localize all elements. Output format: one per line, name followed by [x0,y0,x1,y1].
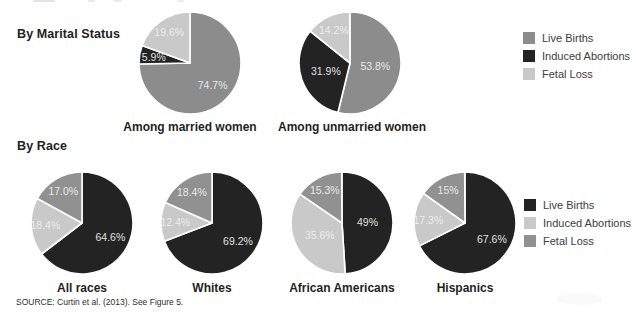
pie-slice-value-label: 17.3% [414,214,444,226]
pie-chart-all-races: 64.6%18.4%17.0% [29,170,135,276]
cropped-text-artifact [33,0,55,2]
legend-label-live-births: Live Births [542,32,593,44]
legend-label-induced-abortions: Induced Abortions [543,217,631,229]
legend-label-fetal-loss: Fetal Loss [543,235,594,247]
scan-smudge [556,293,602,305]
section-label-marital-status: By Marital Status [17,27,120,41]
pie-slice-value-label: 18.4% [177,186,207,198]
pie-slice-value-label: 15% [438,184,459,196]
legend-label-induced-abortions: Induced Abortions [542,50,630,62]
legend-race: Live Births Induced Abortions Fetal Loss [524,199,631,253]
legend-item-live-births: Live Births [523,32,630,44]
source-citation: SOURCE: Curtin et al. (2013). See Figure… [16,297,183,307]
legend-label-fetal-loss: Fetal Loss [542,68,593,80]
pie-chart-unmarried-women: 53.8%31.9%14.2% [297,10,403,116]
cropped-text-artifact [114,0,122,2]
legend-item-live-births: Live Births [524,199,631,211]
legend-item-induced-abortions: Induced Abortions [524,217,631,229]
pie-chart-married-women: 74.7%5.9%19.6% [137,10,243,116]
pie-slice-value-label: 17.0% [48,185,78,197]
pie-chart-whites: 69.2%12.4%18.4% [159,170,265,276]
legend-item-fetal-loss: Fetal Loss [524,235,631,247]
pie-title-hispanics: Hispanics [405,281,525,295]
pie-chart-hispanics: 67.6%17.3%15% [412,170,518,276]
pie-chart-african-americans: 49%35.6%15.3% [289,170,395,276]
legend-item-induced-abortions: Induced Abortions [523,50,630,62]
pie-slice-value-label: 18.4% [31,219,61,231]
pie-slice-value-label: 53.8% [360,60,390,72]
pie-title-all-races: All races [22,281,142,295]
pie-slice-value-label: 12.4% [160,216,190,228]
pie-slice-value-label: 19.6% [154,26,184,38]
cropped-text-artifact [88,0,95,2]
legend-swatch-live-births [524,199,536,211]
pie-slice-value-label: 69.2% [223,235,253,247]
legend-marital-status: Live Births Induced Abortions Fetal Loss [523,32,630,86]
pie-slice-value-label: 74.7% [198,79,228,91]
legend-swatch-fetal-loss [524,235,536,247]
legend-label-live-births: Live Births [543,199,594,211]
legend-swatch-induced-abortions [524,217,536,229]
pie-slice-value-label: 49% [357,216,378,228]
pie-slice-value-label: 15.3% [310,184,340,196]
pie-title-unmarried-women: Among unmarried women [260,120,444,134]
legend-item-fetal-loss: Fetal Loss [523,68,630,80]
pie-slice-value-label: 31.9% [311,65,341,77]
pie-slice-value-label: 35.6% [305,229,335,241]
pie-slice-value-label: 14.2% [319,24,349,36]
pie-title-african-americans: African Americans [262,281,422,295]
pie-title-whites: Whites [152,281,272,295]
legend-swatch-fetal-loss [523,68,535,80]
figure-pregnancy-outcomes: By Marital Status By Race 74.7%5.9%19.6%… [0,0,636,316]
pie-title-married-women: Among married women [100,120,280,134]
legend-swatch-live-births [523,32,535,44]
legend-swatch-induced-abortions [523,50,535,62]
cropped-text-artifact [177,0,184,2]
section-label-race: By Race [17,139,67,153]
pie-slice-value-label: 64.6% [96,231,126,243]
pie-slice-value-label: 67.6% [477,233,507,245]
